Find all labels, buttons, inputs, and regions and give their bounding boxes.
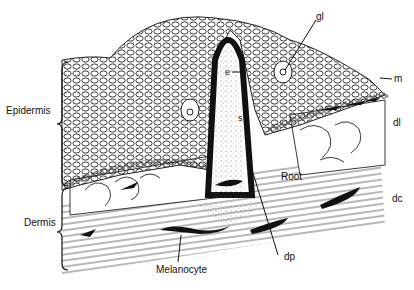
skin-section-diagram [0, 0, 414, 290]
label-melanocyte: Melanocyte [156, 265, 207, 275]
label-root: Root [281, 172, 302, 182]
label-e: e [225, 67, 230, 77]
label-dl: dl [393, 118, 401, 128]
label-dc: dc [392, 194, 403, 204]
label-epidermis: Epidermis [6, 106, 50, 116]
label-m: m [394, 74, 402, 84]
label-s: s [238, 113, 243, 123]
label-gl: gl [316, 12, 324, 22]
label-dp: dp [284, 252, 295, 262]
label-dermis: Dermis [24, 218, 56, 228]
